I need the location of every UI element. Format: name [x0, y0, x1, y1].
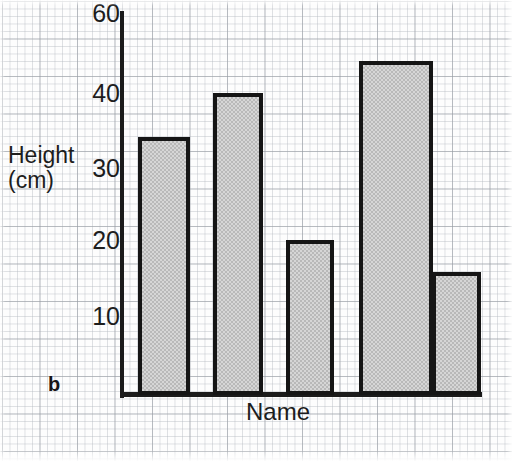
bar-2 [213, 93, 263, 395]
y-tick-label-40: 40 [74, 81, 120, 106]
plot-area: 60 40 30 20 10 Height (cm) Name b [0, 0, 512, 461]
bar-chart-figure: 60 40 30 20 10 Height (cm) Name b [0, 0, 512, 461]
y-axis-line [120, 11, 124, 398]
y-tick-label-20: 20 [74, 228, 120, 253]
part-label-b: b [48, 373, 60, 396]
y-axis-title-line-2: (cm) [8, 168, 74, 193]
y-tick-label-10: 10 [74, 304, 120, 329]
bar-4 [359, 61, 433, 395]
y-axis-title: Height (cm) [8, 143, 74, 193]
y-axis-title-line-1: Height [8, 143, 74, 168]
bar-3 [286, 240, 334, 395]
y-tick-label-60: 60 [74, 1, 120, 26]
x-axis-title: Name [246, 398, 310, 426]
bar-1 [138, 137, 190, 395]
y-tick-label-30: 30 [74, 156, 120, 181]
bar-5 [432, 272, 481, 395]
